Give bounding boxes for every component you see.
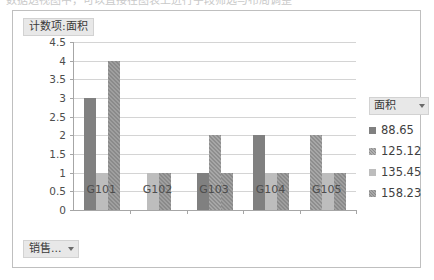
cropped-top-text-strip: 数据透视图中，可以直接在图表上进行字段筛选与布局调整: [0, 0, 434, 9]
x-axis-tick-mark: [187, 210, 188, 214]
x-axis-tick-label: G101: [86, 183, 116, 196]
x-axis-tick-mark: [300, 210, 301, 214]
legend-swatch-icon: [369, 190, 376, 197]
y-axis-tick-label: 0.5: [49, 186, 66, 196]
legend-item-label: 158.23: [381, 187, 421, 199]
y-axis-tick-label: 3.5: [49, 74, 66, 84]
legend-swatch-icon: [369, 127, 376, 134]
chart-legend: 面积 88.65125.12135.45158.23: [369, 97, 433, 199]
legend-swatch-icon: [369, 148, 376, 155]
x-axis-tick-label: G103: [199, 183, 229, 196]
y-axis-tick-label: 1.5: [49, 149, 66, 159]
y-axis-tick-label: 4: [59, 56, 66, 66]
chevron-down-icon: [68, 247, 74, 251]
y-axis-tick-labels: 00.511.522.533.544.5: [43, 42, 69, 210]
axis-field-label: 销售...: [29, 242, 62, 255]
y-axis-tick-label: 4.5: [49, 37, 66, 47]
legend-item-label: 135.45: [381, 166, 421, 178]
legend-field-button[interactable]: 面积: [369, 97, 429, 115]
x-axis-tick-mark: [130, 210, 131, 214]
x-axis-tick-mark: [243, 210, 244, 214]
chart-title-field-button[interactable]: 计数项:面积: [23, 18, 94, 36]
x-axis-tick-labels: G101G102G103G104G105: [73, 183, 355, 199]
pivot-chart-frame: 计数项:面积 00.511.522.533.544.5 G101G102G103…: [12, 10, 421, 268]
chevron-down-icon: [419, 104, 425, 108]
legend-swatch-icon: [369, 169, 376, 176]
cropped-caption-text: 数据透视图中，可以直接在图表上进行字段筛选与布局调整: [6, 0, 292, 7]
legend-items: 88.65125.12135.45158.23: [369, 124, 433, 199]
legend-item[interactable]: 88.65: [369, 124, 433, 136]
y-axis-tick-label: 2.5: [49, 112, 66, 122]
legend-item[interactable]: 135.45: [369, 166, 433, 178]
x-axis-tick-label: G104: [256, 183, 286, 196]
y-axis-tick-label: 0: [59, 205, 66, 215]
x-axis-tick-label: G102: [143, 183, 173, 196]
legend-field-label: 面积: [374, 99, 396, 112]
legend-item[interactable]: 158.23: [369, 187, 433, 199]
legend-item[interactable]: 125.12: [369, 145, 433, 157]
y-axis-tick-label: 3: [59, 93, 66, 103]
legend-item-label: 125.12: [381, 145, 421, 157]
axis-field-button[interactable]: 销售...: [23, 240, 79, 258]
legend-item-label: 88.65: [381, 124, 414, 136]
x-axis-tick-mark: [356, 210, 357, 214]
y-axis-tick-label: 1: [59, 168, 66, 178]
x-axis-tick-label: G105: [312, 183, 342, 196]
y-axis-tick-mark: [70, 210, 74, 211]
y-axis-tick-label: 2: [59, 130, 66, 140]
